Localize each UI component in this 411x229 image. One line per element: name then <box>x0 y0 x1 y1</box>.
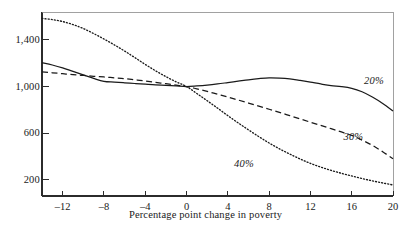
chart-plot-area <box>0 0 411 229</box>
x-axis-title: Percentage point change in poverty <box>0 209 411 220</box>
series-line-40pct <box>42 18 393 185</box>
series-paths <box>42 18 393 185</box>
series-annotation: 40% <box>234 159 254 170</box>
axes-frame <box>42 12 393 196</box>
y-tick-label: 600 <box>2 128 40 139</box>
y-tick-label: 200 <box>2 175 40 186</box>
series-line-20pct <box>42 63 393 111</box>
chart-figure: 1,4001,000600200 –12–8–4048121620 Percen… <box>0 0 411 229</box>
series-annotation: 20% <box>364 76 384 87</box>
series-line-30pct <box>42 72 393 159</box>
y-tick-label: 1,400 <box>2 35 40 46</box>
y-tick-label: 1,000 <box>2 82 40 93</box>
series-annotation: 30% <box>343 132 363 143</box>
